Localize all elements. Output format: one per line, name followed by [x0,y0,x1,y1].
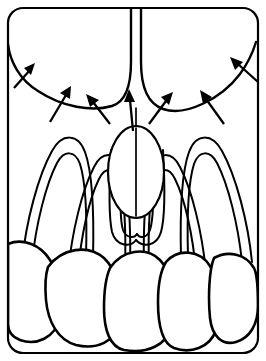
figure-svg [0,0,266,361]
crown-right [209,254,258,343]
dental-anatomy-figure: Maxillary anterior palatal anatomy line … [0,0,266,361]
